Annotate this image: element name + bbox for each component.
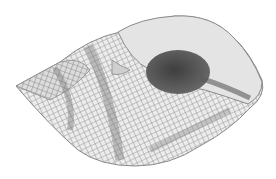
aperture	[146, 50, 210, 94]
shell-drawing	[0, 0, 276, 179]
shell-illustration	[0, 0, 276, 179]
